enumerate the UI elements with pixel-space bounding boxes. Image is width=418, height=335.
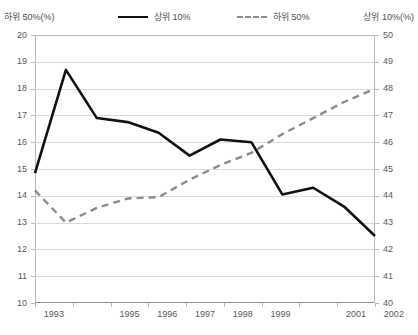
- legend-label-bottom50: 하위 50%: [273, 10, 310, 24]
- x-axis-tick-label: 1995: [119, 310, 139, 319]
- series-line-bottom50: [35, 89, 375, 223]
- right-axis-tick: [375, 169, 379, 170]
- right-axis-tick-label: 47: [383, 111, 393, 120]
- series-line-top10: [35, 70, 375, 236]
- x-axis-tick: [299, 303, 300, 307]
- right-axis-tick: [375, 142, 379, 143]
- x-axis-tick-label: 1998: [233, 310, 253, 319]
- right-axis-tick-label: 41: [383, 272, 393, 281]
- right-axis-tick-label: 50: [383, 31, 393, 40]
- left-axis-tick-label: 20: [17, 31, 27, 40]
- right-axis-tick-label: 43: [383, 218, 393, 227]
- right-axis-tick: [375, 62, 379, 63]
- x-axis-tick: [375, 303, 376, 307]
- legend-label-top10: 상위 10%: [154, 10, 191, 24]
- legend-item-bottom50: 하위 50%: [237, 10, 310, 24]
- x-axis-tick: [73, 303, 74, 307]
- left-axis-tick-label: 17: [17, 111, 27, 120]
- right-axis-tick: [375, 276, 379, 277]
- x-axis-tick: [148, 303, 149, 307]
- x-axis-tick: [111, 303, 112, 307]
- series-lines: [35, 35, 375, 303]
- x-axis-tick-label: 1993: [44, 310, 64, 319]
- left-axis-tick-label: 11: [18, 272, 27, 281]
- left-axis-tick-label: 14: [17, 191, 27, 200]
- right-axis-tick-label: 42: [383, 245, 393, 254]
- right-axis-tick-label: 40: [383, 299, 393, 308]
- left-axis-tick-label: 15: [17, 165, 27, 174]
- x-axis-tick-label: 2002: [384, 310, 404, 319]
- plot-area: 1011121314151617181920 40414243444546474…: [35, 35, 375, 303]
- left-axis-tick-label: 10: [17, 299, 27, 308]
- right-axis-tick-label: 44: [383, 191, 393, 200]
- x-axis-tick: [262, 303, 263, 307]
- x-axis-tick-label: 1999: [271, 310, 291, 319]
- legend-swatch-dashed-line-icon: [237, 16, 267, 18]
- right-axis-tick: [375, 89, 379, 90]
- x-axis-tick-label: 1996: [157, 310, 177, 319]
- left-axis-tick-label: 18: [17, 84, 27, 93]
- right-axis-title: 상위 10%(%): [363, 10, 414, 24]
- left-axis-title: 하위 50%(%): [4, 10, 55, 24]
- left-axis-tick-label: 12: [17, 245, 27, 254]
- x-axis-tick: [35, 303, 36, 307]
- x-axis-tick: [224, 303, 225, 307]
- chart-container: 하위 50%(%) 상위 10%(%) 상위 10% 하위 50% 101112…: [0, 0, 418, 335]
- legend-item-top10: 상위 10%: [118, 10, 191, 24]
- right-axis-tick: [375, 115, 379, 116]
- left-axis-tick-label: 19: [17, 57, 27, 66]
- left-axis-tick-label: 16: [17, 138, 27, 147]
- right-axis-tick-label: 45: [383, 165, 393, 174]
- right-axis-tick: [375, 35, 379, 36]
- left-axis-tick-label: 13: [17, 218, 27, 227]
- right-axis-tick: [375, 249, 379, 250]
- right-axis-tick: [375, 223, 379, 224]
- x-axis-tick: [186, 303, 187, 307]
- right-axis-tick-label: 46: [383, 138, 393, 147]
- x-axis-tick: [337, 303, 338, 307]
- right-axis-tick: [375, 196, 379, 197]
- legend-swatch-solid-line-icon: [118, 16, 148, 18]
- right-axis-tick-label: 49: [383, 57, 393, 66]
- x-axis-tick-label: 2001: [346, 310, 366, 319]
- right-axis-tick-label: 48: [383, 84, 393, 93]
- x-axis-tick-label: 1997: [195, 310, 215, 319]
